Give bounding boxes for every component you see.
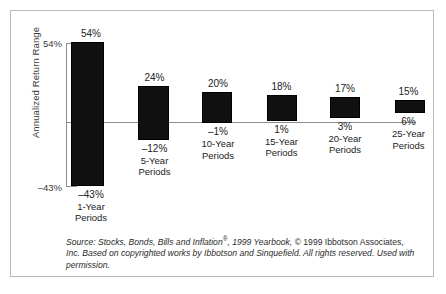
period-label: 20-YearPeriods — [325, 133, 365, 156]
period-label-line1: 25-Year — [389, 128, 429, 140]
period-label: 5-YearPeriods — [135, 155, 175, 178]
period-label-line2: Periods — [389, 140, 429, 152]
range-bar[interactable] — [330, 97, 360, 118]
source-lead: Source: Stocks, Bonds, Bills and Inflati… — [66, 237, 223, 247]
bar-high-label: 15% — [389, 86, 429, 97]
bar-high-label: 17% — [325, 83, 365, 94]
source-copyright: © 1999 Ibbotson Associates, — [295, 237, 404, 247]
bar-low-label: –1% — [198, 126, 238, 137]
range-bar[interactable] — [71, 42, 104, 186]
chart-figure: Annualized Return Range 54% –43% 54%–43%… — [0, 0, 446, 294]
period-label-line2: Periods — [262, 147, 302, 159]
bar-low-label: –12% — [135, 143, 175, 154]
range-bar[interactable] — [395, 100, 425, 113]
bar-high-label: 54% — [71, 28, 111, 39]
source-note: Source: Stocks, Bonds, Bills and Inflati… — [66, 233, 416, 271]
period-label-line1: 15-Year — [262, 136, 302, 148]
period-label-line1: 1-Year — [71, 201, 111, 213]
period-label: 1-YearPeriods — [71, 201, 111, 224]
period-label: 15-YearPeriods — [262, 136, 302, 159]
bar-high-label: 20% — [198, 78, 238, 89]
period-label: 25-YearPeriods — [389, 128, 429, 151]
bar-low-label: –43% — [71, 189, 111, 200]
source-line2: Inc. Based on copyrighted works by Ibbot… — [66, 248, 374, 258]
bar-low-label: 3% — [325, 121, 365, 132]
period-label-line2: Periods — [325, 144, 365, 156]
period-label-line2: Periods — [135, 166, 175, 178]
period-label-line1: 5-Year — [135, 155, 175, 167]
bar-low-label: 1% — [262, 124, 302, 135]
period-label-line2: Periods — [198, 150, 238, 162]
period-label-line1: 10-Year — [198, 138, 238, 150]
bar-high-label: 18% — [262, 81, 302, 92]
range-bar[interactable] — [202, 92, 232, 123]
range-bar[interactable] — [267, 95, 297, 120]
period-label-line1: 20-Year — [325, 133, 365, 145]
range-bar[interactable] — [138, 86, 169, 139]
chart-frame: Annualized Return Range 54% –43% 54%–43%… — [10, 10, 434, 277]
period-label: 10-YearPeriods — [198, 138, 238, 161]
source-middle: , 1999 Yearbook, — [227, 237, 294, 247]
bar-low-label: 6% — [389, 116, 429, 127]
period-label-line2: Periods — [71, 212, 111, 224]
bar-high-label: 24% — [135, 72, 175, 83]
